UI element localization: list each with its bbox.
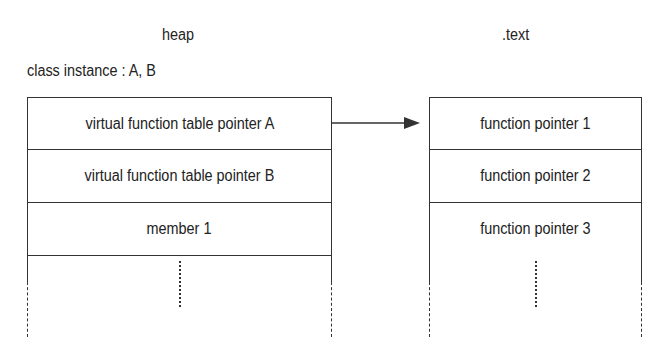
text-title: .text [502, 26, 529, 44]
heap-box: virtual function table pointer A virtual… [27, 97, 332, 337]
heap-divider [27, 255, 332, 256]
heap-row: virtual function table pointer A [27, 97, 332, 150]
heap-title: heap [162, 26, 194, 44]
heap-row: virtual function table pointer B [27, 149, 332, 202]
ellipsis-dots [535, 261, 537, 307]
heap-row: member 1 [27, 202, 332, 255]
arrow-icon [332, 116, 424, 130]
text-row: function pointer 2 [429, 149, 642, 202]
ellipsis-dots [179, 261, 181, 307]
text-row: function pointer 1 [429, 97, 642, 150]
text-row: function pointer 3 [429, 202, 642, 255]
text-box: function pointer 1 function pointer 2 fu… [429, 97, 642, 337]
heap-subtitle: class instance : A, B [27, 62, 156, 80]
